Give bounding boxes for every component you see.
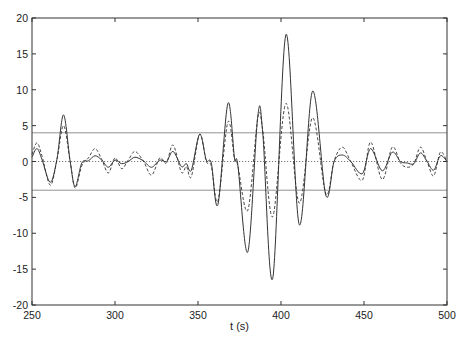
x-tick-label: 350 [189,309,207,321]
x-tick-label: 500 [438,309,456,321]
y-tick-label: 20 [16,12,28,24]
y-tick-label: -20 [13,299,28,311]
x-axis-label: t (s) [230,320,249,332]
y-tick-label: 0 [22,156,28,168]
y-tick-label: -10 [13,227,28,239]
y-tick-label: -5 [19,191,28,203]
x-tick-label: 400 [272,309,290,321]
x-axis: 250300350400450500 [23,18,456,321]
y-tick-label: -15 [13,263,28,275]
y-tick-label: 10 [16,84,28,96]
line-chart: 250300350400450500 -20-15-10-505101520 t… [0,0,465,340]
series-group [32,34,447,280]
y-tick-label: 5 [22,120,28,132]
series-solid-line [32,34,447,280]
y-tick-label: 15 [16,48,28,60]
series-dashed-line [32,103,447,217]
x-tick-label: 300 [106,309,124,321]
x-tick-label: 450 [355,309,373,321]
